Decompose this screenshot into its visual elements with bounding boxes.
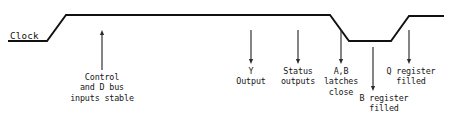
annotation-line: filled: [387, 76, 436, 86]
annotation-line: and D bus: [70, 82, 134, 92]
annotation-line: Control: [70, 72, 134, 82]
annotation-line: Q register: [387, 66, 436, 76]
timing-diagram: Clock Controland D businputs stableYOutp…: [0, 0, 452, 128]
annotation-text-q-register-filled: Q registerfilled: [387, 66, 436, 87]
clock-waveform: [8, 15, 444, 41]
annotation-text-y-output: YOutput: [236, 66, 265, 87]
annotation-line: outputs: [281, 76, 315, 86]
annotation-line: inputs stable: [70, 93, 134, 103]
annotation-line: Output: [236, 76, 265, 86]
clock-signal-label: Clock: [10, 31, 39, 41]
annotation-line: Status: [281, 66, 315, 76]
arrow-head-status-outputs: [296, 59, 300, 64]
annotation-text-status-outputs: Statusoutputs: [281, 66, 315, 87]
clock-waveform-path: [8, 15, 444, 41]
annotation-text-ab-latches-close: A,Blatchesclose: [324, 66, 358, 97]
annotation-line: close: [324, 87, 358, 97]
arrow-head-b-register-filled: [371, 86, 375, 91]
annotation-text-control-d-bus-inputs-stable: Controland D businputs stable: [70, 72, 134, 103]
annotation-text-b-register-filled: B registerfilled: [360, 93, 409, 114]
arrow-head-control-d-bus-inputs-stable: [100, 30, 104, 35]
arrow-head-y-output: [249, 59, 253, 64]
annotation-line: B register: [360, 93, 409, 103]
arrow-head-q-register-filled: [407, 59, 411, 64]
annotation-line: filled: [360, 103, 409, 113]
arrow-head-ab-latches-close: [339, 59, 343, 64]
annotation-line: A,B: [324, 66, 358, 76]
annotation-line: Y: [236, 66, 265, 76]
annotation-line: latches: [324, 76, 358, 86]
